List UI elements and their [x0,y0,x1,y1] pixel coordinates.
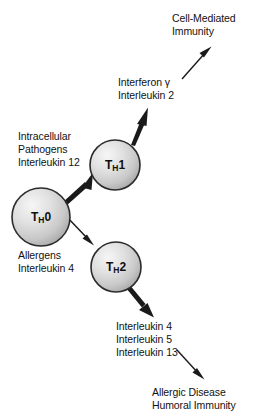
th1-label-num: 1 [118,158,125,172]
label-th1-inducers: Intracellular Pathogens Interleukin 12 [18,130,80,170]
arrow-th2-to-cytokines [126,284,154,318]
label-allergic-outcome: Allergic Disease Humoral Immunity [152,386,236,412]
arrow-cytokines-to-allergic [177,350,205,380]
arrow-th0-to-th1 [63,173,94,207]
arrow-th1-to-cytokines [131,108,148,147]
th0-label-num: 0 [44,210,51,224]
cell-label-th1: TH1 [85,158,145,173]
cell-label-th2: TH2 [86,260,146,275]
cell-label-th0: TH0 [11,210,71,225]
arrow-cytokines-to-cell-mediated [182,47,212,80]
label-th1-cytokines: Interferon γ Interleukin 2 [118,76,174,102]
th2-label-num: 2 [119,260,126,274]
label-cell-mediated-immunity: Cell-Mediated Immunity [172,12,235,38]
label-th2-cytokines: Interleukin 4 Interleukin 5 Interleukin … [116,320,178,360]
th-differentiation-diagram: TH0 TH1 TH2 Cell-Mediated Immunity Inter… [0,0,254,418]
label-th2-inducers: Allergens Interleukin 4 [18,249,74,275]
